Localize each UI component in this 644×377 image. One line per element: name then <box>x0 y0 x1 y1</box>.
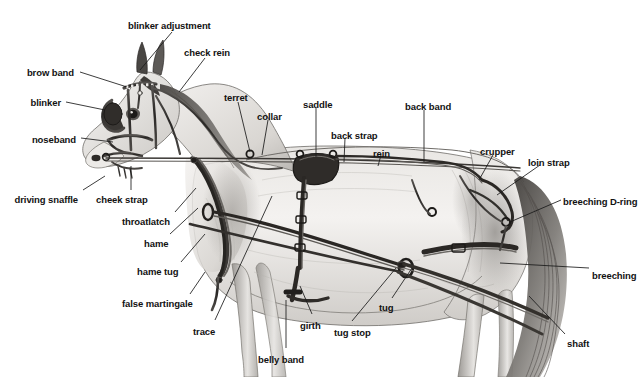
callout-label-hame-tug: hame tug <box>137 266 178 277</box>
callout-label-trace: trace <box>193 326 215 337</box>
callout-label-false-martingale: false martingale <box>122 298 193 309</box>
callout-label-blinker-adjustment: blinker adjustment <box>128 20 211 31</box>
callout-label-saddle: saddle <box>303 99 333 110</box>
callout-label-shaft: shaft <box>567 338 589 349</box>
callout-label-brow-band: brow band <box>27 67 74 78</box>
callout-label-tug-stop: tug stop <box>334 327 371 338</box>
callout-label-cheek-strap: cheek strap <box>96 194 148 205</box>
callout-label-breeching-d-ring: breeching D-ring <box>563 196 637 207</box>
callout-label-blinker: blinker <box>31 97 61 108</box>
callout-label-noseband: noseband <box>32 134 76 145</box>
diagram-canvas: blinker adjustmentcheck reinbrow bandbli… <box>0 0 644 377</box>
callout-label-throatlatch: throatlatch <box>122 216 170 227</box>
callout-label-rein: rein <box>373 148 390 159</box>
callout-label-terret: terret <box>224 92 248 103</box>
callout-label-back-band: back band <box>405 101 451 112</box>
callout-label-layer: blinker adjustmentcheck reinbrow bandbli… <box>0 0 644 377</box>
callout-label-check-rein: check rein <box>184 47 230 58</box>
callout-label-back-strap: back strap <box>331 130 378 141</box>
callout-label-girth: girth <box>300 320 321 331</box>
callout-label-collar: collar <box>257 111 282 122</box>
callout-label-crupper: crupper <box>480 146 515 157</box>
callout-label-belly-band: belly band <box>258 354 304 365</box>
callout-label-driving-snaffle: driving snaffle <box>15 194 78 205</box>
callout-label-hame: hame <box>144 238 168 249</box>
callout-label-loin-strap: loin strap <box>528 157 570 168</box>
callout-label-tug: tug <box>379 302 393 313</box>
callout-label-breeching: breeching <box>592 270 637 281</box>
